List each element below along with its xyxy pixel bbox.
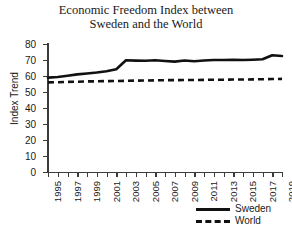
x-axis-tick [185,172,186,177]
x-axis-tick [263,172,264,177]
chart-container: Economic Freedom Index between Sweden an… [0,0,292,232]
x-axis-tick-label: 2009 [189,181,200,202]
x-axis-tick-label: 2019 [286,181,292,202]
y-axis-tick-label: 50 [25,87,36,98]
plot-area: 80706050403020100 1995199719992001200320… [48,44,282,172]
x-axis-tick [224,172,225,177]
x-axis-tick-label: 2001 [111,181,122,202]
x-axis-tick-label: 1997 [72,181,83,202]
x-axis-tick [253,172,254,177]
chart-title: Economic Freedom Index between Sweden an… [28,3,264,31]
x-axis-tick [233,172,234,177]
x-axis-tick-label: 2003 [130,181,141,202]
legend-swatch-dashed-icon [196,220,230,223]
x-axis-tick [77,172,78,177]
chart-legend: Sweden World [196,203,288,227]
legend-swatch-solid-icon [196,208,230,211]
x-axis-tick [243,172,244,177]
legend-item-world: World [196,215,288,227]
x-axis-tick [175,172,176,177]
x-axis-tick [58,172,59,177]
y-axis-tick-label: 70 [25,55,36,66]
x-axis-tick [204,172,205,177]
x-axis-tick [68,172,69,177]
x-axis-tick [194,172,195,177]
y-axis-tick-label: 20 [25,135,36,146]
legend-label-sweden: Sweden [235,203,271,215]
x-axis-tick [116,172,117,177]
x-axis-tick-label: 2011 [208,181,219,201]
y-axis-tick-label: 0 [30,167,36,178]
x-axis-tick [146,172,147,177]
y-axis-tick-label: 60 [25,71,36,82]
x-axis-tick [214,172,215,177]
x-axis-tick [97,172,98,177]
y-axis-tick-label: 30 [25,119,36,130]
x-axis-tick [155,172,156,177]
series-lines [48,44,282,172]
x-axis-tick-label: 2013 [228,181,239,202]
y-axis-title: Index Trend [9,54,20,144]
legend-label-world: World [235,215,261,227]
x-axis-tick [48,172,49,177]
x-axis-tick [87,172,88,177]
series-line-world [48,79,282,83]
x-axis-tick [282,172,283,177]
x-axis-tick [126,172,127,177]
x-axis-tick [136,172,137,177]
x-axis-tick-label: 1999 [91,181,102,202]
y-axis-tick-label: 80 [25,39,36,50]
x-axis-tick [107,172,108,177]
y-axis-tick-label: 40 [25,103,36,114]
series-line-sweden [48,55,282,77]
x-axis-tick-label: 2007 [169,181,180,202]
legend-item-sweden: Sweden [196,203,288,215]
x-axis-tick [272,172,273,177]
x-axis-tick [165,172,166,177]
x-axis-tick-label: 2017 [267,181,278,202]
x-axis-tick-label: 2005 [150,181,161,202]
x-axis-tick-label: 2015 [247,181,258,202]
y-axis-tick-label: 10 [25,151,36,162]
x-axis-tick-label: 1995 [52,181,63,202]
